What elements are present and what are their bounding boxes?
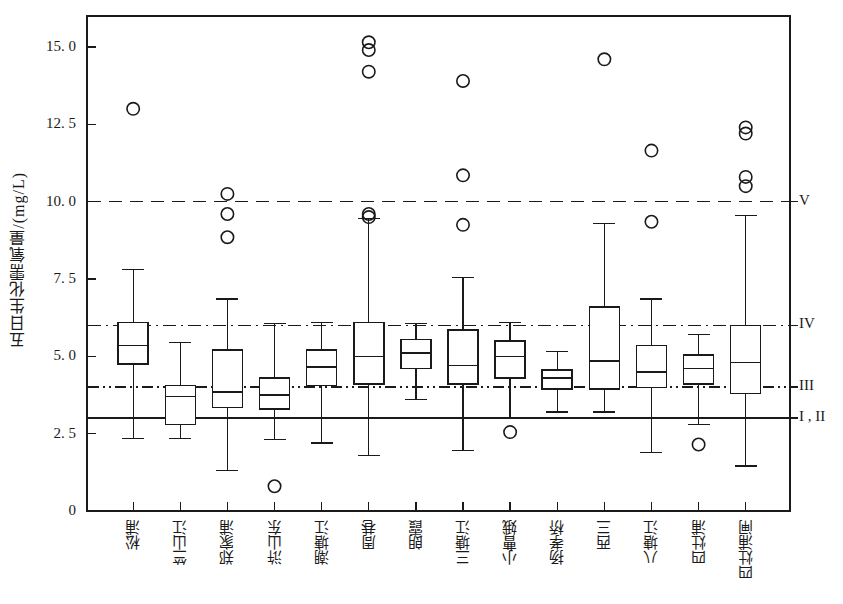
box-plot (589, 53, 619, 412)
x-tick-label-text: 松浦 (122, 520, 143, 550)
outlier-point (221, 231, 233, 243)
box-plots (118, 36, 761, 492)
outlier-point (363, 65, 375, 77)
x-tick-label: 松浦 (122, 520, 146, 550)
box-plot (542, 352, 572, 412)
outlier-point (645, 216, 657, 228)
box-plot (448, 75, 478, 451)
plot-border (87, 16, 790, 511)
box-plot (165, 342, 195, 438)
reference-line-label: I , II (799, 408, 825, 425)
outlier-point (457, 219, 469, 231)
box-iqr (165, 386, 195, 425)
box-iqr (260, 378, 290, 409)
x-tick-label-text: 八塘江 (640, 520, 661, 565)
outlier-point (504, 426, 516, 438)
x-tick-label-text: 三塘江 (452, 520, 473, 565)
box-iqr (495, 341, 525, 378)
x-tick-label-text: 扬孝桥 (546, 520, 567, 565)
box-iqr (589, 307, 619, 389)
x-tick-label-text: 四灶浦闸 (735, 520, 756, 580)
outlier-point (692, 438, 704, 450)
x-tick-label: 郑家浦 (216, 520, 240, 565)
chart-root: 五日生化需氧量/(mg/L) 02. 55. 07. 510. 012. 515… (0, 0, 843, 604)
x-tick-label: 竺山江 (169, 520, 193, 565)
outlier-point (457, 169, 469, 181)
x-tick-label: 八塘江 (640, 520, 664, 565)
box-plot (260, 324, 290, 493)
x-tick-label-text: 竺山江 (169, 520, 190, 565)
x-tick-label-text: 朗霞 (405, 520, 426, 550)
x-tick-label-text: 郑家浦 (216, 520, 237, 565)
box-iqr (212, 350, 242, 407)
box-iqr (731, 325, 761, 393)
box-plot (495, 322, 525, 438)
outlier-point (127, 103, 139, 115)
plot-frame (87, 16, 790, 511)
outlier-point (268, 480, 280, 492)
box-plot (307, 322, 337, 443)
x-tick-label: 三塘江 (452, 520, 476, 565)
reference-line-label: V (799, 192, 810, 209)
box-iqr (118, 322, 148, 364)
box-iqr (448, 330, 478, 384)
x-tick-label: 小曹娥 (499, 520, 523, 565)
box-iqr (636, 345, 666, 387)
box-iqr (542, 370, 572, 389)
boxplot-canvas (0, 0, 843, 604)
y-axis-ticks (87, 47, 96, 511)
x-tick-label-text: 四灶浦 (688, 520, 709, 565)
outlier-point (457, 75, 469, 87)
x-tick-label-text: 周巷 (358, 520, 379, 550)
box-plot (401, 324, 431, 400)
x-tick-label-text: 小曹娥 (499, 520, 520, 565)
outlier-point (221, 208, 233, 220)
box-plot (731, 121, 761, 466)
x-tick-label: 扬孝桥 (546, 520, 570, 565)
box-plot (636, 144, 666, 452)
outlier-point (598, 53, 610, 65)
x-tick-label-text: 浒山东 (264, 520, 285, 565)
outlier-point (645, 144, 657, 156)
x-tick-label: 四灶浦 (688, 520, 712, 565)
x-tick-label: 朗霞 (405, 520, 429, 550)
x-tick-label: 浒山东 (264, 520, 288, 565)
outlier-point (221, 188, 233, 200)
reference-line-label: IV (799, 315, 815, 332)
outlier-point (363, 44, 375, 56)
x-axis-ticks (133, 502, 746, 511)
box-plot (684, 335, 714, 451)
box-plot (212, 188, 242, 471)
x-tick-label: 西三 (593, 520, 617, 550)
x-tick-label-text: 西三 (593, 520, 614, 550)
x-tick-label: 潮塘江 (311, 520, 335, 565)
reference-line-label: III (799, 377, 814, 394)
x-tick-label: 四灶浦闸 (735, 520, 759, 580)
x-tick-label: 周巷 (358, 520, 382, 550)
x-tick-label-text: 潮塘江 (311, 520, 332, 565)
outlier-point (740, 180, 752, 192)
box-plot (354, 36, 384, 455)
box-iqr (354, 322, 384, 384)
